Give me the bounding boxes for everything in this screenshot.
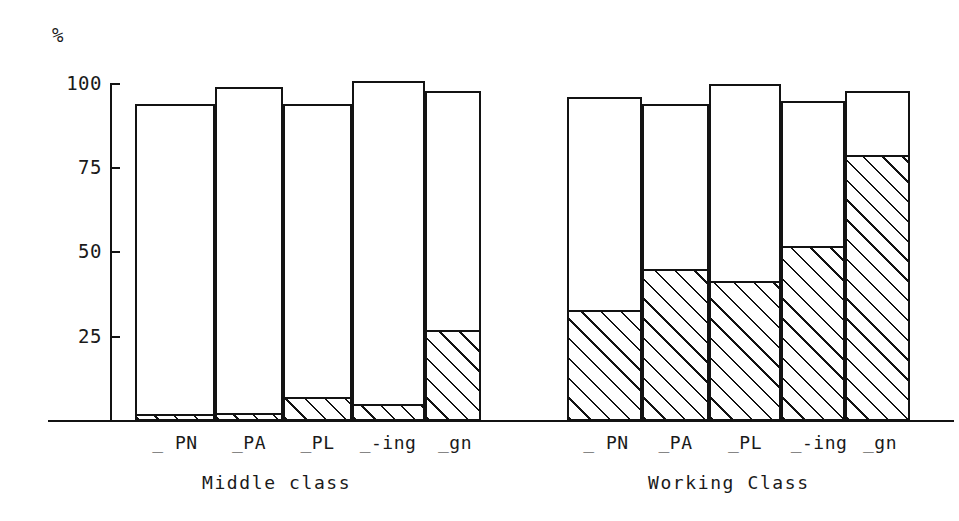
- bar-hatched-working-gn: [845, 155, 910, 421]
- bar-hatched-working-ing: [781, 246, 845, 421]
- bar-hatched-working-pa: [642, 269, 709, 421]
- bar-total-middle-pl: [283, 104, 352, 421]
- group-caption-middle-class: Middle class: [202, 474, 351, 492]
- x-label-working-pa: _PA: [642, 434, 709, 452]
- x-label-working-gn: _gn: [850, 434, 910, 452]
- x-label-working-pn: _ PN: [567, 434, 645, 452]
- bar-hatched-working-pn: [567, 310, 642, 421]
- bar-hatched-middle-pa: [215, 413, 283, 421]
- bar-total-middle-pa: [215, 87, 283, 421]
- x-label-middle-pn: _ PN: [135, 434, 215, 452]
- group-caption-working-class: Working Class: [648, 474, 810, 492]
- x-label-middle-ing: _-ing: [348, 434, 428, 452]
- x-label-working-ing: _-ing: [779, 434, 859, 452]
- bar-hatched-middle-pl: [283, 397, 352, 421]
- bar-total-middle-ing: [352, 81, 425, 421]
- x-label-working-pl: _PL: [709, 434, 781, 452]
- bar-hatched-working-pl: [709, 281, 781, 421]
- bar-hatched-middle-ing: [352, 404, 425, 421]
- x-label-middle-pl: _PL: [283, 434, 352, 452]
- bar-total-middle-pn: [135, 104, 215, 421]
- bar-hatched-middle-pn: [135, 414, 215, 421]
- bar-hatched-middle-gn: [425, 330, 481, 421]
- chart-page: % 100 75 50 25 _ PN _PA _PL _-ing _gn _ …: [0, 0, 959, 521]
- x-label-middle-gn: _gn: [425, 434, 485, 452]
- x-label-middle-pa: _PA: [215, 434, 283, 452]
